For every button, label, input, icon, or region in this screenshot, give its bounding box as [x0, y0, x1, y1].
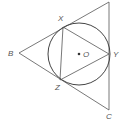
geometry-diagram: X O Y B Z C [0, 0, 127, 121]
label-x: X [57, 14, 64, 23]
outer-triangle [19, 2, 109, 110]
label-b: B [8, 49, 14, 58]
center-point-o [78, 53, 81, 56]
label-z: Z [54, 83, 61, 92]
label-c: C [106, 112, 112, 121]
label-o: O [83, 50, 89, 59]
label-y: Y [113, 50, 119, 59]
